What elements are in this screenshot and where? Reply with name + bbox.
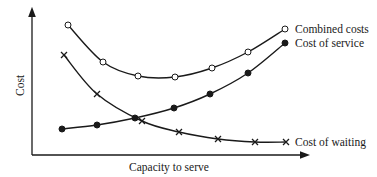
x-marker-icon — [61, 52, 67, 58]
y-axis-label: Cost — [14, 74, 26, 96]
open-circle-marker-icon — [172, 74, 178, 80]
open-circle-marker-icon — [245, 49, 251, 55]
open-circle-marker-icon — [100, 59, 106, 65]
cost-chart: Combined costs Cost of service Cost of w… — [0, 0, 377, 177]
open-circle-marker-icon — [65, 22, 71, 28]
open-circle-marker-icon — [209, 65, 215, 71]
x-marker-icon — [94, 91, 100, 97]
open-circle-marker-icon — [282, 26, 288, 32]
legend-service: Cost of service — [295, 37, 364, 49]
open-circle-marker-icon — [135, 73, 141, 79]
filled-circle-marker-icon — [171, 105, 177, 111]
x-axis-label: Capacity to serve — [129, 161, 209, 174]
legend-waiting: Cost of waiting — [295, 136, 366, 149]
filled-circle-marker-icon — [245, 70, 251, 76]
cost-of-waiting-line — [64, 55, 286, 142]
legend-combined: Combined costs — [295, 23, 369, 35]
filled-circle-marker-icon — [207, 91, 213, 97]
x-marker-icon — [139, 118, 145, 124]
filled-circle-marker-icon — [59, 126, 65, 132]
filled-circle-marker-icon — [282, 40, 288, 46]
filled-circle-marker-icon — [94, 122, 100, 128]
